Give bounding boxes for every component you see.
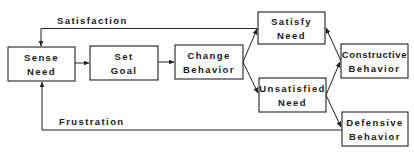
constructive-behavior-line1: Constructive — [342, 49, 407, 60]
node-unsatisfied-need: Unsatisfied Need — [259, 78, 326, 112]
node-set-goal: Set Goal — [90, 46, 158, 80]
node-sense-need: Sense Need — [8, 47, 75, 81]
node-satisfy-need: Satisfy Need — [258, 12, 325, 44]
edge-change-to-unsatisfied — [243, 62, 258, 93]
edge-satisfaction-feedback: Satisfaction — [41, 15, 258, 46]
frustration-label: Frustration — [59, 116, 125, 127]
edge-unsatisfied-to-constructive — [326, 62, 340, 95]
change-behavior-line1: Change — [187, 50, 230, 61]
node-constructive-behavior: Constructive Behavior — [341, 44, 408, 78]
edge-unsatisfied-to-defensive — [326, 95, 341, 127]
change-behavior-line2: Behavior — [183, 64, 235, 75]
satisfy-need-line2: Need — [277, 30, 306, 41]
constructive-behavior-line2: Behavior — [349, 63, 401, 74]
edge-change-to-satisfy — [243, 29, 257, 62]
set-goal-line2: Goal — [111, 65, 138, 76]
satisfaction-label: Satisfaction — [57, 15, 128, 26]
unsatisfied-need-line1: Unsatisfied — [259, 83, 326, 94]
satisfy-need-line1: Satisfy — [271, 16, 312, 27]
need-motivation-flow-diagram: Satisfaction Frustration Sense Need Set … — [0, 0, 414, 153]
set-goal-line1: Set — [115, 51, 134, 62]
node-change-behavior: Change Behavior — [175, 45, 243, 79]
sense-need-line2: Need — [27, 66, 56, 77]
defensive-behavior-line2: Behavior — [349, 131, 401, 142]
sense-need-line1: Sense — [24, 52, 59, 63]
node-defensive-behavior: Defensive Behavior — [342, 112, 408, 146]
edge-constructive-to-satisfy — [326, 28, 341, 61]
unsatisfied-need-line2: Need — [278, 97, 307, 108]
defensive-behavior-line1: Defensive — [346, 117, 403, 128]
